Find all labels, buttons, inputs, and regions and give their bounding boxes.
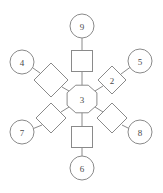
mid-node-top-square[interactable] (72, 51, 93, 72)
outer-node-top-circle[interactable] (70, 14, 94, 38)
edge-mid-to-outer-upper-left (33, 68, 40, 73)
edge-center-to-mid-lower-left (61, 107, 69, 112)
outer-node-lower-right-circle[interactable] (128, 120, 152, 144)
edge-mid-to-outer-upper-right (121, 67, 131, 74)
edge-center-to-mid-upper-right (95, 86, 103, 91)
mid-node-bottom-square[interactable] (72, 127, 93, 148)
diagram-canvas: 9 2 5 8 6 7 (0, 0, 163, 193)
edge-mid-to-outer-lower-left (34, 125, 43, 129)
outer-node-bottom-circle[interactable] (70, 156, 94, 180)
center-node-octagon[interactable] (67, 85, 97, 113)
mid-node-lower-left-diamond[interactable] (36, 103, 66, 133)
center-node-group: 3 (67, 85, 97, 113)
radial-node-diagram: 9 2 5 8 6 7 (0, 0, 163, 193)
edge-center-to-mid-upper-left (62, 87, 69, 91)
outer-node-upper-right-circle[interactable] (128, 49, 152, 73)
branch-lower-right: 8 (97, 103, 152, 144)
outer-node-lower-left-circle[interactable] (10, 120, 34, 144)
branch-upper-left: 4 (10, 50, 68, 97)
mid-node-lower-right-diamond[interactable] (97, 103, 127, 133)
mid-node-upper-right-diamond[interactable] (98, 66, 126, 94)
edge-center-to-mid-lower-right (95, 107, 103, 112)
edge-mid-to-outer-lower-right (122, 125, 129, 129)
outer-node-upper-left-circle[interactable] (10, 50, 34, 74)
mid-node-upper-left-diamond[interactable] (34, 63, 68, 97)
branch-lower-left: 7 (10, 103, 66, 144)
